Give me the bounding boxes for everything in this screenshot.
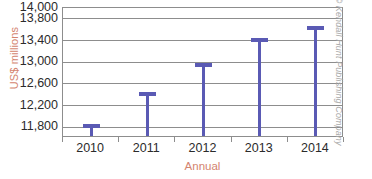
x-axis-tick-mark [118, 137, 119, 142]
x-axis-tick-mark [231, 137, 232, 142]
chart-container: US$ millions 14,00013,80013,40013,00012,… [0, 0, 372, 179]
gridline [63, 40, 342, 41]
y-axis-tick-labels: 14,00013,80013,40013,00012,60012,20011,8… [0, 0, 62, 137]
bar-stem [146, 92, 149, 136]
bar [139, 92, 156, 136]
y-axis-tick-label: 11,800 [21, 119, 58, 133]
bar-stem [258, 38, 261, 136]
y-axis-tick-label: 12,600 [20, 76, 58, 90]
gridline [63, 18, 342, 19]
x-axis-tick-label: 2012 [189, 141, 217, 155]
x-axis-title: Annual [62, 160, 343, 172]
y-axis-tick-label: 12,200 [20, 98, 58, 112]
x-axis-tick-label: 2010 [76, 141, 104, 155]
x-axis-tick-mark [62, 137, 63, 142]
x-axis-tick-label: 2011 [133, 141, 160, 155]
bar-cap [195, 63, 212, 67]
y-axis-tick-label: 13,400 [20, 33, 58, 47]
y-axis-tick-label: 13,800 [20, 11, 58, 25]
plot-area [62, 7, 343, 137]
copyright-credit: © Kendall Hunt Publishing Company [334, 0, 344, 156]
bar [307, 26, 324, 137]
bar-cap [307, 26, 324, 30]
y-axis-tick-label: 13,000 [20, 54, 58, 68]
bar-stem [202, 63, 205, 136]
bar-cap [139, 92, 156, 96]
x-axis-tick-label: 2013 [245, 141, 273, 155]
bar-stem [314, 26, 317, 137]
x-axis-tick-mark [287, 137, 288, 142]
x-axis-tick-mark [174, 137, 175, 142]
bar [251, 38, 268, 136]
bar [195, 63, 212, 136]
bar [83, 124, 100, 136]
x-axis-tick-label: 2014 [301, 141, 329, 155]
bar-cap [251, 38, 268, 42]
x-axis: 20102011201220132014 [62, 137, 343, 159]
bar-cap [83, 124, 100, 128]
